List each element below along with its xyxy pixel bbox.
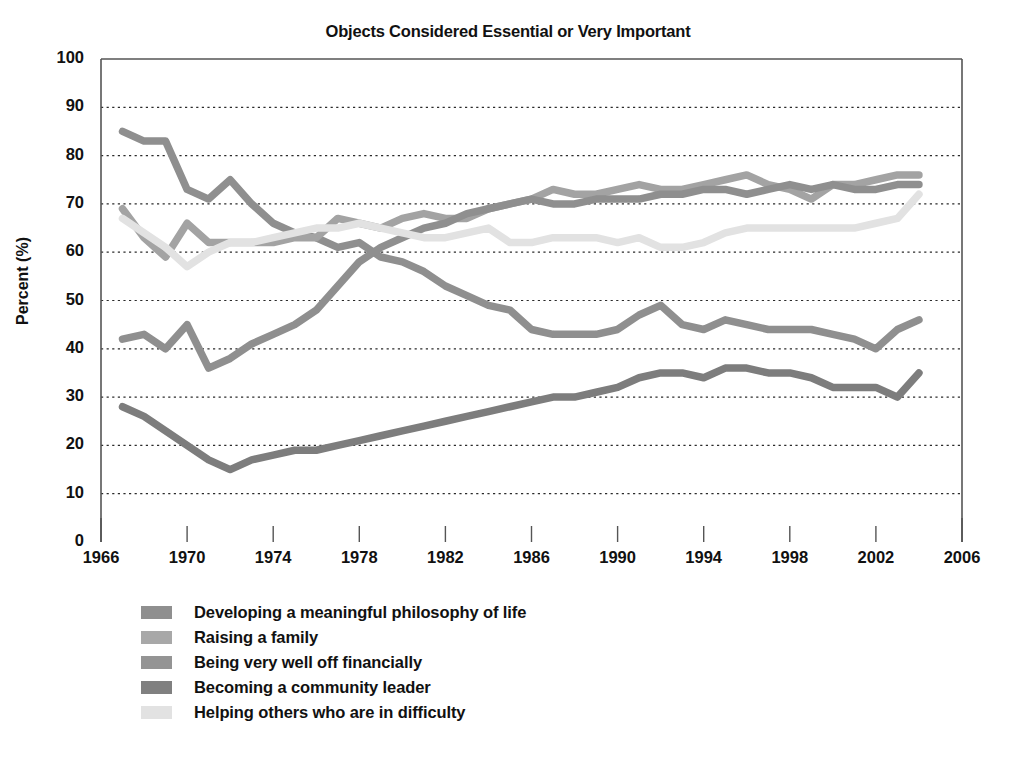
series-line-3: [123, 368, 919, 469]
y-tick-label: 80: [38, 145, 84, 164]
legend-swatch-icon: [141, 606, 172, 619]
y-tick-label: 70: [38, 193, 84, 212]
x-tick-label: 1974: [238, 548, 308, 567]
x-tick-label: 1990: [583, 548, 653, 567]
y-tick-label: 10: [38, 483, 84, 502]
legend-label: Helping others who are in difficulty: [194, 703, 465, 722]
y-tick-label: 50: [38, 290, 84, 309]
chart-legend: Developing a meaningful philosophy of li…: [141, 600, 841, 725]
x-tick-label: 1978: [324, 548, 394, 567]
y-tick-label: 40: [38, 338, 84, 357]
legend-item[interactable]: Becoming a community leader: [141, 675, 841, 700]
chart-figure: Objects Considered Essential or Very Imp…: [0, 0, 1016, 782]
x-tick-label: 1966: [66, 548, 136, 567]
x-tick-label: 1998: [755, 548, 825, 567]
y-tick-label: 60: [38, 241, 84, 260]
x-tick-label: 1986: [497, 548, 567, 567]
legend-item[interactable]: Helping others who are in difficulty: [141, 700, 841, 725]
x-tick-label: 2002: [841, 548, 911, 567]
legend-label: Being very well off financially: [194, 653, 422, 672]
legend-label: Raising a family: [194, 628, 318, 647]
x-tick-label: 1970: [152, 548, 222, 567]
legend-label: Developing a meaningful philosophy of li…: [194, 603, 526, 622]
chart-svg: [0, 0, 1016, 600]
x-tick-label: 2006: [927, 548, 997, 567]
legend-label: Becoming a community leader: [194, 678, 431, 697]
plot-area: [0, 0, 1016, 600]
y-tick-label: 20: [38, 434, 84, 453]
legend-item[interactable]: Being very well off financially: [141, 650, 841, 675]
legend-swatch-icon: [141, 706, 172, 719]
y-tick-label: 90: [38, 96, 84, 115]
legend-item[interactable]: Raising a family: [141, 625, 841, 650]
legend-item[interactable]: Developing a meaningful philosophy of li…: [141, 600, 841, 625]
x-tick-label: 1994: [669, 548, 739, 567]
legend-swatch-icon: [141, 631, 172, 644]
legend-swatch-icon: [141, 656, 172, 669]
y-tick-label: 100: [38, 48, 84, 67]
series-line-2: [123, 185, 919, 369]
legend-swatch-icon: [141, 681, 172, 694]
y-tick-label: 30: [38, 386, 84, 405]
x-tick-label: 1982: [410, 548, 480, 567]
